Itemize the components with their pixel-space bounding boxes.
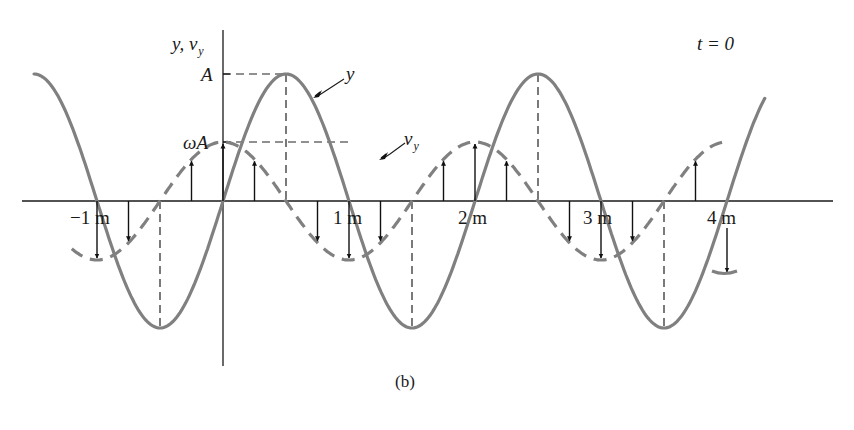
x-tick-label-1: 1 m xyxy=(333,208,362,227)
label-leaders xyxy=(315,79,405,158)
x-tick-label-3: 3 m xyxy=(583,208,612,227)
y-axis-label: y, vy xyxy=(172,34,203,53)
curve-label-vy-main: v xyxy=(404,128,412,149)
curve-label-y: y xyxy=(346,64,354,83)
x-tick-label-4: 4 m xyxy=(707,208,736,227)
figure-caption: (b) xyxy=(395,373,415,390)
tick-label-A: A xyxy=(201,65,213,84)
x-tick-label-2: 2 m xyxy=(458,208,487,227)
time-label: t = 0 xyxy=(697,34,734,53)
velocity-curve-endcap xyxy=(712,271,737,274)
tick-label-omegaA: ωA xyxy=(183,133,208,152)
curve-label-vy: vy xyxy=(404,129,418,148)
x-tick-label-neg1: −1 m xyxy=(70,208,110,227)
y-axis-label-main: y, v xyxy=(172,33,197,54)
curve-label-vy-subscript: y xyxy=(413,139,418,153)
y-axis-label-subscript: y xyxy=(198,44,203,58)
